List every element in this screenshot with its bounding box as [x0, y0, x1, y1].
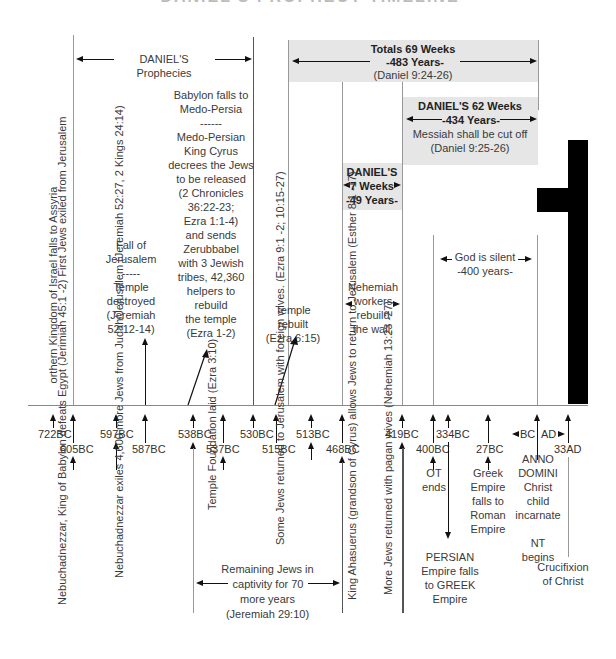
timeline-diagram: DANIEL'S PROPHECY TIMELINE DANIEL'S Prop… [0, 0, 616, 659]
remaining-line4: (Jeremiah 29:10) [205, 607, 330, 621]
span-line [202, 583, 228, 584]
weeks-62-ref: (Daniel 9:25-26) [402, 141, 538, 155]
nebuchadnezzar-597-note: Nebuchadnezzar exiles 4,600 more Jews fr… [112, 423, 126, 578]
tick-587bc: 587BC [132, 443, 166, 455]
weeks-62-years: -434 Years- [442, 113, 500, 127]
arrow-right-icon [245, 56, 252, 62]
arrow-right-icon [558, 431, 565, 437]
arrow-down-icon [445, 532, 451, 539]
arrow-right-icon [394, 182, 401, 188]
tick-530bc: 530BC [240, 428, 274, 440]
arrow-right-icon [393, 301, 400, 307]
arrow-stem [53, 420, 54, 428]
diagram-title: DANIEL'S PROPHECY TIMELINE [80, 0, 540, 6]
tick-bc: BC [520, 428, 535, 440]
span-line [215, 59, 246, 60]
arrow-stem [223, 462, 224, 470]
totals-years: -483 Years- [370, 55, 460, 69]
span-line [412, 119, 442, 120]
arrow-stem [145, 420, 146, 443]
arrow-right-icon [525, 256, 532, 262]
god-silent-years: -400 years- [450, 264, 520, 278]
temple-foundation-note: Temple Foundation laid (Ezra 3:10) [205, 450, 219, 510]
cross-horizontal [537, 188, 588, 212]
daniels-prophecies-label: DANIEL'S Prophecies [114, 52, 214, 80]
arrow-stem [448, 420, 449, 428]
crucifixion-note: Crucifixion of Christ [528, 560, 598, 588]
messiah-cut-off: Messiah shall be cut off [402, 127, 538, 141]
foreign-wives-note: Some Jews returned to Jerusalem with for… [273, 445, 287, 545]
arrow-stem [73, 462, 74, 470]
boundary-totals-right [538, 40, 539, 110]
remaining-right-line [342, 462, 343, 613]
tick-ad: AD [541, 428, 556, 440]
god-silent-label: God is silent [450, 250, 520, 264]
arrow-stem [73, 420, 74, 443]
arrow-stem [342, 420, 343, 443]
babylon-cyrus-note: Babylon falls to Medo-Persia ------ Medo… [165, 88, 257, 340]
span-line [298, 61, 370, 62]
remaining-line3: more years [205, 592, 330, 606]
arrow-stem [488, 420, 489, 443]
arrow-stem [311, 448, 312, 460]
arrow-stem [253, 420, 254, 428]
boundary-605bc [73, 35, 74, 405]
nebuchadnezzar-605-note: Nebuchadnezzar, King of Babylon defeats … [55, 455, 69, 605]
remaining-line1: Remaining Jews in [205, 562, 330, 576]
weeks-62-title: DANIEL'S 62 Weeks [402, 99, 538, 113]
arrow-stem [193, 420, 194, 428]
arrow-stem [568, 420, 569, 443]
span-line [82, 59, 114, 60]
arrow-right-icon [530, 116, 537, 122]
arrow-stem [311, 420, 312, 428]
arrow-right-icon [333, 580, 340, 586]
arrow-stem [402, 420, 403, 428]
cross-vertical [568, 140, 588, 404]
arrow-right-icon [530, 58, 537, 64]
span-line [460, 61, 530, 62]
boundary-468bc [342, 82, 343, 405]
anno-domini-note: ANNO DOMINI Christ child incarnate NT be… [510, 452, 566, 564]
boundary-400bc [433, 235, 434, 405]
greek-empire-note: Greek Empire falls to Roman Empire [465, 466, 511, 536]
pagan-wives-line [402, 448, 404, 613]
totals-ref: (Daniel 9:24-26) [288, 68, 538, 82]
arrow-stem [433, 420, 434, 443]
boundary-ad [537, 235, 538, 405]
ahasuerus-note: King Ahasuerus (grandson of Cyrus) allow… [345, 430, 359, 600]
ot-ends-note: OT ends [415, 466, 453, 494]
pagan-wives-note: More Jews returned with pagan wives (Neh… [381, 455, 395, 595]
persian-empire-note: PERSIAN Empire falls to GREEK Empire [420, 550, 480, 606]
remaining-left-line [193, 448, 194, 613]
span-line [500, 119, 530, 120]
arrow-left-icon [512, 431, 519, 437]
totals-title: Totals 69 Weeks [288, 42, 538, 56]
arrow-stem [145, 344, 146, 405]
span-line [308, 583, 334, 584]
tick-513bc: 513BC [296, 428, 330, 440]
crucifixion-line [568, 457, 569, 557]
timeline-axis [28, 405, 588, 406]
tick-334bc: 334BC [436, 428, 470, 440]
arrow-stem [223, 420, 224, 443]
tick-400bc: 400BC [416, 443, 450, 455]
remaining-line2: captivity for 70 [228, 577, 308, 591]
fall-jerusalem-note: Fall of Jerusalem ----- Temple destroyed… [100, 238, 162, 336]
tick-27bc: 27BC [476, 443, 504, 455]
